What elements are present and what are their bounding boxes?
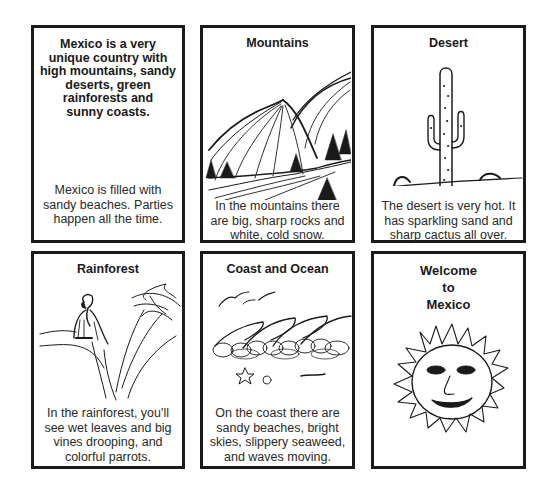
body-line: The desert is very hot. It: [378, 199, 519, 214]
body-line: vines drooping, and: [38, 435, 178, 450]
body-line: sandy beaches, bright: [207, 421, 348, 436]
intro-heading: Mexico is a very unique country with hig…: [34, 38, 182, 119]
intro-heading-line: rainforests and: [38, 92, 178, 106]
welcome-heading: Welcome to Mexico: [374, 262, 523, 313]
body-line: are big, sharp rocks and: [207, 214, 348, 229]
mountains-illustration-icon: [205, 50, 351, 200]
intro-card: Mexico is a very unique country with hig…: [31, 25, 185, 243]
body-line: see wet leaves and big: [38, 421, 178, 436]
desert-body-text: The desert is very hot. It has sparkling…: [374, 199, 523, 243]
welcome-heading-line: Welcome: [374, 262, 523, 279]
body-line: On the coast there are: [207, 406, 348, 421]
welcome-heading-line: to: [374, 279, 523, 296]
welcome-card: Welcome to Mexico: [371, 251, 526, 469]
body-line: and waves moving.: [207, 450, 348, 465]
card-title: Coast and Ocean: [203, 262, 352, 276]
body-line: skies, slippery seaweed,: [207, 435, 348, 450]
welcome-heading-line: Mexico: [374, 296, 523, 313]
desert-card: Desert The desert is very hot. It has sp…: [371, 25, 526, 243]
body-line: happen all the time.: [38, 212, 178, 227]
body-line: has sparkling sand and: [378, 214, 519, 229]
body-line: sharp cactus all over.: [378, 228, 519, 243]
coast-card: Coast and Ocean On the coast there are s…: [200, 251, 355, 469]
rainforest-card: Rainforest In the rainforest, you'll see…: [31, 251, 185, 469]
coast-body-text: On the coast there are sandy beaches, br…: [203, 406, 352, 464]
card-title: Rainforest: [34, 262, 182, 276]
smiling-sun-icon: [392, 322, 510, 436]
mountains-card: Mountains In the mountains there are big…: [200, 25, 355, 243]
body-line: sandy beaches. Parties: [38, 198, 178, 213]
intro-heading-line: unique country with: [38, 52, 178, 66]
card-title: Desert: [374, 36, 523, 50]
body-line: In the mountains there: [207, 199, 348, 214]
waves-illustration-icon: [205, 284, 353, 394]
intro-heading-line: Mexico is a very: [38, 38, 178, 52]
body-line: colorful parrots.: [38, 450, 178, 465]
body-line: Mexico is filled with: [38, 183, 178, 198]
mountains-body-text: In the mountains there are big, sharp ro…: [203, 199, 352, 243]
body-line: In the rainforest, you'll: [38, 406, 178, 421]
body-line: white, cold snow.: [207, 228, 348, 243]
cactus-illustration-icon: [376, 66, 524, 186]
card-title: Mountains: [203, 36, 352, 50]
intro-heading-line: high mountains, sandy: [38, 65, 178, 79]
rainforest-body-text: In the rainforest, you'll see wet leaves…: [34, 406, 182, 464]
intro-heading-line: sunny coasts.: [38, 106, 178, 120]
intro-body-text: Mexico is filled with sandy beaches. Par…: [34, 183, 182, 227]
parrot-illustration-icon: [36, 280, 182, 405]
intro-heading-line: deserts, green: [38, 79, 178, 93]
